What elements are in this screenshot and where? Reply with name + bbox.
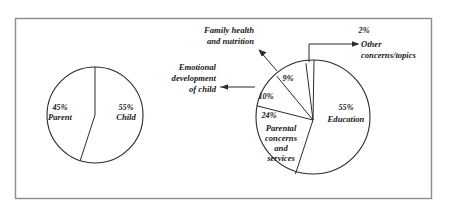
right-pie-emotional-percent: 10% bbox=[258, 92, 273, 101]
figure-canvas: 45% Parent 55% Child 55% Education 24% P… bbox=[0, 0, 450, 218]
right-pie-education-label: Education bbox=[327, 114, 365, 124]
left-pie-child-percent: 55% bbox=[118, 103, 133, 112]
callout-other-line2: concerns/topics bbox=[361, 50, 417, 60]
right-pie-parental-label-line1: Parental bbox=[266, 123, 297, 133]
callout-emotional-line2: development bbox=[172, 73, 217, 83]
right-pie-parental-percent: 24% bbox=[260, 111, 276, 120]
callout-family-line1: Family health bbox=[203, 25, 254, 35]
right-pie-family-percent: 9% bbox=[283, 74, 294, 83]
callout-family-line2: and nutrition bbox=[207, 36, 254, 46]
right-pie-other-percent: 2% bbox=[358, 26, 370, 35]
callout-emotional-line3: of child bbox=[189, 84, 217, 94]
callout-other-line1: Other bbox=[361, 39, 382, 49]
right-pie-parental-label-line3: and bbox=[274, 143, 288, 153]
right-pie-parental-label-line2: concerns bbox=[265, 133, 298, 143]
right-pie-parental-label-line4: services bbox=[266, 153, 295, 163]
left-pie-parent-percent: 45% bbox=[51, 103, 67, 112]
pie-chart-figure: 45% Parent 55% Child 55% Education 24% P… bbox=[0, 0, 450, 218]
left-pie-parent-label: Parent bbox=[48, 112, 72, 122]
callout-emotional-line1: Emotional bbox=[178, 62, 217, 72]
left-pie-child-label: Child bbox=[116, 112, 136, 122]
right-pie-education-percent: 55% bbox=[338, 103, 353, 112]
